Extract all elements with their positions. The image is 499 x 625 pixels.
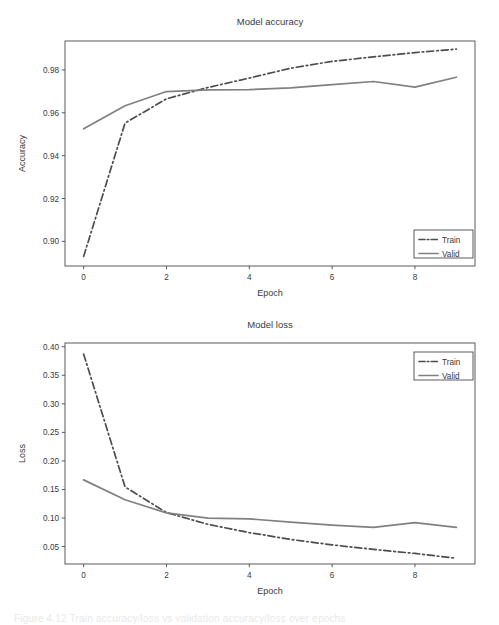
series-line-valid [84, 77, 457, 129]
y-tick-label: 0.10 [43, 514, 59, 523]
y-tick-label: 0.98 [43, 66, 59, 75]
y-tick-label: 0.90 [43, 237, 59, 246]
y-tick-label: 0.05 [43, 543, 59, 552]
x-axis-label: Epoch [257, 288, 283, 298]
x-axis-label: Epoch [257, 586, 283, 596]
accuracy-figure: Model accuracy0.900.920.940.960.9802468E… [0, 0, 499, 310]
plot-frame [65, 343, 475, 564]
y-tick-label: 0.94 [43, 152, 59, 161]
legend-label-valid: Valid [442, 250, 460, 259]
x-tick-label: 4 [247, 571, 252, 580]
x-tick-label: 2 [164, 273, 169, 282]
figure-caption-strip: Figure 4.12 Train accuracy/loss vs valid… [0, 612, 499, 625]
y-tick-label: 0.92 [43, 195, 59, 204]
loss-figure: Model loss0.050.100.150.200.250.300.350.… [0, 310, 499, 610]
x-tick-label: 8 [413, 571, 418, 580]
legend-label-valid: Valid [442, 372, 460, 381]
series-line-train [84, 49, 457, 256]
y-tick-label: 0.30 [43, 400, 59, 409]
y-tick-label: 0.20 [43, 457, 59, 466]
chart-title: Model loss [247, 319, 293, 330]
model-accuracy-chart: Model accuracy0.900.920.940.960.9802468E… [0, 0, 499, 310]
figure-caption: Figure 4.12 Train accuracy/loss vs valid… [0, 612, 499, 625]
x-tick-label: 2 [164, 571, 169, 580]
y-tick-label: 0.96 [43, 109, 59, 118]
legend-label-train: Train [442, 236, 461, 245]
plot-frame [65, 41, 475, 266]
y-axis-label: Loss [17, 443, 27, 463]
series-line-train [84, 354, 457, 558]
legend-label-train: Train [442, 358, 461, 367]
y-tick-label: 0.35 [43, 371, 59, 380]
chart-title: Model accuracy [237, 16, 304, 27]
x-tick-label: 0 [81, 273, 86, 282]
x-tick-label: 4 [247, 273, 252, 282]
model-loss-chart: Model loss0.050.100.150.200.250.300.350.… [0, 310, 499, 610]
y-tick-label: 0.15 [43, 485, 59, 494]
series-line-valid [84, 480, 457, 528]
x-tick-label: 6 [330, 273, 335, 282]
y-axis-label: Accuracy [17, 134, 27, 172]
x-tick-label: 6 [330, 571, 335, 580]
y-tick-label: 0.25 [43, 428, 59, 437]
y-tick-label: 0.40 [43, 343, 59, 352]
x-tick-label: 8 [413, 273, 418, 282]
x-tick-label: 0 [81, 571, 86, 580]
